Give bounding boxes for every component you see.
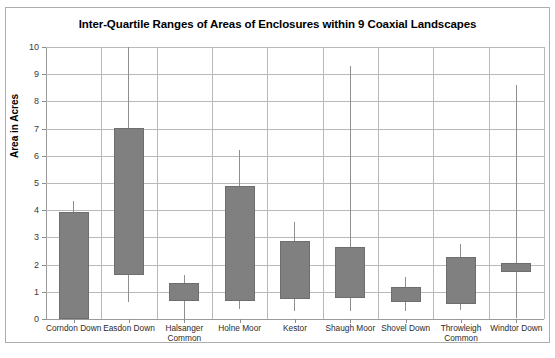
x-axis-label: Shovel Down [378, 323, 433, 333]
chart-title: Inter-Quartile Ranges of Areas of Enclos… [6, 18, 549, 30]
box-whisker-item [433, 47, 488, 319]
x-axis-label: Kestor [267, 323, 322, 333]
box-whisker-item [46, 47, 101, 319]
y-tick-label: 2 [34, 260, 39, 270]
x-axis-labels: Corndon DownEasdon DownHalsanger CommonH… [46, 323, 544, 343]
y-tick-label: 7 [34, 124, 39, 134]
y-axis-title: Area in Acres [9, 94, 20, 158]
y-tick-label: 10 [29, 42, 39, 52]
box-whisker-item [323, 47, 378, 319]
box-rect [225, 186, 255, 301]
box-rect [501, 263, 531, 272]
y-tick-label: 8 [34, 96, 39, 106]
figure-caption [6, 345, 551, 358]
y-tick-label: 5 [34, 178, 39, 188]
x-axis-label: Windtor Down [489, 323, 544, 333]
whisker-line [516, 85, 517, 318]
box-whisker-item [101, 47, 156, 319]
box-whisker-item [489, 47, 544, 319]
x-axis-label: Holne Moor [212, 323, 267, 333]
x-axis-label: Easdon Down [101, 323, 156, 333]
clipped-header-text [0, 0, 555, 7]
chart-figure: Inter-Quartile Ranges of Areas of Enclos… [5, 7, 550, 343]
plot-area: 109876543210 [46, 47, 544, 319]
box-whisker-item [378, 47, 433, 319]
box-rect [446, 257, 476, 304]
box-rect [335, 247, 365, 298]
y-tick-mark [42, 319, 46, 320]
box-whisker-item [212, 47, 267, 319]
x-axis-label: Corndon Down [46, 323, 101, 333]
box-rect [114, 128, 144, 275]
box-whisker-item [157, 47, 212, 319]
box-whisker-item [267, 47, 322, 319]
x-axis-label: Halsanger Common [157, 323, 212, 343]
y-tick-label: 4 [34, 205, 39, 215]
y-tick-label: 6 [34, 151, 39, 161]
box-rect [169, 283, 199, 301]
category-separator [544, 47, 545, 319]
y-tick-label: 0 [34, 314, 39, 324]
box-rect [59, 212, 89, 319]
box-rect [280, 241, 310, 300]
box-rect [391, 287, 421, 303]
y-tick-label: 9 [34, 69, 39, 79]
x-axis-label: Shaugh Moor [323, 323, 378, 333]
y-tick-label: 3 [34, 232, 39, 242]
y-tick-label: 1 [34, 287, 39, 297]
x-axis-label: Throwleigh Common [433, 323, 488, 343]
